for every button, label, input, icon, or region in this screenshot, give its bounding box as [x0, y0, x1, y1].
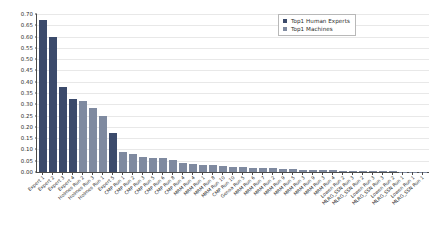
bar-slot [138, 14, 148, 172]
bar-slot [368, 14, 378, 172]
bar-slot [258, 14, 268, 172]
y-tick-label: 0.10 [21, 146, 37, 152]
y-tick-label: 0.50 [21, 56, 37, 62]
y-tick-label: 0.70 [21, 11, 37, 17]
bar[interactable] [109, 133, 116, 173]
bar-slot [348, 14, 358, 172]
bar-slot [38, 14, 48, 172]
bar-slot [278, 14, 288, 172]
legend-swatch-icon [283, 19, 287, 23]
bar[interactable] [39, 20, 46, 172]
bar-slot [288, 14, 298, 172]
bar[interactable] [159, 158, 166, 172]
x-label-slot: MLRG_SSN Run 1 [417, 175, 427, 231]
bar-slot [128, 14, 138, 172]
legend-label: Top1 Human Experts [291, 18, 350, 24]
bar-slot [308, 14, 318, 172]
bar-slot [268, 14, 278, 172]
bar-slot [88, 14, 98, 172]
bar-slot [58, 14, 68, 172]
bar[interactable] [89, 108, 96, 172]
bar[interactable] [69, 99, 76, 172]
bar[interactable] [169, 160, 176, 172]
y-tick-label: 0.65 [21, 22, 37, 28]
bar-slot [198, 14, 208, 172]
bar-slot [418, 14, 428, 172]
bar-slot [208, 14, 218, 172]
bar[interactable] [49, 37, 56, 172]
bar-slot [108, 14, 118, 172]
y-tick-label: 0.40 [21, 79, 37, 85]
bar[interactable] [189, 164, 196, 172]
y-tick-label: 0.55 [21, 45, 37, 51]
plot-area: 0.000.050.100.150.200.250.300.350.400.45… [36, 14, 429, 173]
bar-slot [98, 14, 108, 172]
y-tick-label: 0.20 [21, 124, 37, 130]
bar-slot [188, 14, 198, 172]
bar-slot [228, 14, 238, 172]
bar[interactable] [129, 154, 136, 172]
bar[interactable] [139, 157, 146, 172]
x-axis-labels: Expert 1Expert 2Expert 3Expert 4Holmes R… [36, 175, 428, 231]
bar-slot [178, 14, 188, 172]
bar-slot [338, 14, 348, 172]
bar-slot [248, 14, 258, 172]
y-tick-label: 0.00 [21, 169, 37, 175]
bar[interactable] [79, 101, 86, 172]
y-tick-label: 0.35 [21, 90, 37, 96]
bar-slot [48, 14, 58, 172]
bar-slot [388, 14, 398, 172]
legend: Top1 Human ExpertsTop1 Machines [278, 14, 356, 36]
bar-slot [218, 14, 228, 172]
bar-slot [298, 14, 308, 172]
bar[interactable] [199, 165, 206, 172]
bar[interactable] [59, 87, 66, 172]
y-tick-label: 0.60 [21, 34, 37, 40]
legend-item[interactable]: Top1 Machines [283, 26, 350, 32]
y-tick-label: 0.15 [21, 135, 37, 141]
bar-slot [238, 14, 248, 172]
bar-slot [408, 14, 418, 172]
legend-item[interactable]: Top1 Human Experts [283, 18, 350, 24]
bar-slot [158, 14, 168, 172]
bar[interactable] [179, 163, 186, 172]
bar-slot [318, 14, 328, 172]
bar[interactable] [209, 165, 216, 172]
y-tick-label: 0.30 [21, 101, 37, 107]
legend-label: Top1 Machines [291, 26, 333, 32]
legend-swatch-icon [283, 27, 287, 31]
bar-slot [68, 14, 78, 172]
bar[interactable] [119, 152, 126, 172]
y-tick-label: 0.45 [21, 67, 37, 73]
bar-slot [118, 14, 128, 172]
bar-slot [168, 14, 178, 172]
bar-chart-figure: 0.000.050.100.150.200.250.300.350.400.45… [0, 0, 438, 231]
bar-slot [148, 14, 158, 172]
bar-slot [328, 14, 338, 172]
bars-container [37, 14, 429, 172]
bar-slot [378, 14, 388, 172]
bar-slot [398, 14, 408, 172]
bar-slot [78, 14, 88, 172]
y-tick-label: 0.05 [21, 158, 37, 164]
bar[interactable] [149, 158, 156, 172]
y-tick-label: 0.25 [21, 113, 37, 119]
bar-slot [358, 14, 368, 172]
bar[interactable] [99, 116, 106, 172]
